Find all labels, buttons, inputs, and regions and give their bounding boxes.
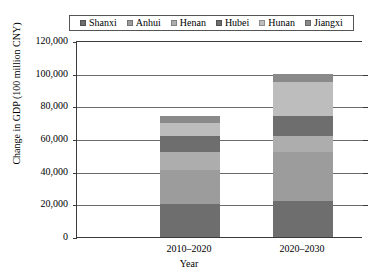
bar-2[interactable] — [273, 41, 333, 237]
bar-segment-anhui[interactable] — [273, 152, 333, 201]
legend-swatch-icon — [259, 20, 265, 26]
legend-swatch-icon — [305, 20, 311, 26]
legend-swatch-icon — [127, 20, 133, 26]
chart-container: ShanxiAnhuiHenanHubeiHunanJiangxi Change… — [0, 0, 378, 279]
bar-segment-hubei[interactable] — [160, 136, 220, 152]
y-axis-tick — [73, 75, 77, 76]
y-axis-tick — [73, 205, 77, 206]
y-axis-tick-right — [363, 75, 368, 76]
bar-segment-jiangxi[interactable] — [273, 74, 333, 82]
x-axis-tick-label: 2010–2020 — [129, 243, 249, 254]
y-axis-tick-label: 40,000 — [41, 167, 69, 177]
plot-area — [76, 41, 362, 238]
bar-1[interactable] — [160, 41, 220, 237]
legend-item-label: Shanxi — [89, 18, 117, 28]
legend-item-anhui[interactable]: Anhui — [127, 18, 161, 28]
legend-item-label: Hunan — [268, 18, 295, 28]
legend-swatch-icon — [171, 20, 177, 26]
y-axis-tick-right — [363, 173, 368, 174]
y-axis-tick — [73, 107, 77, 108]
legend-item-label: Henan — [180, 18, 206, 28]
legend-swatch-icon — [80, 20, 86, 26]
bar-segment-henan[interactable] — [160, 152, 220, 170]
y-axis-tick — [73, 173, 77, 174]
legend-item-label: Hubei — [225, 18, 249, 28]
bar-segment-hunan[interactable] — [273, 82, 333, 116]
y-axis-tick-right — [363, 205, 368, 206]
bar-segment-henan[interactable] — [273, 136, 333, 152]
y-axis-tick — [73, 140, 77, 141]
y-axis-tick — [73, 238, 77, 239]
bar-segment-shanxi[interactable] — [273, 201, 333, 237]
y-axis-tick-label: 20,000 — [41, 199, 69, 209]
y-axis-tick-label: 80,000 — [41, 101, 69, 111]
y-axis-tick-label: 120,000 — [36, 36, 69, 46]
y-axis-tick-labels: 020,00040,00060,00080,000100,000120,000 — [0, 41, 72, 238]
bar-segment-shanxi[interactable] — [160, 204, 220, 237]
legend-item-label: Jiangxi — [314, 18, 343, 28]
y-axis-tick-label: 100,000 — [36, 69, 69, 79]
legend-swatch-icon — [216, 20, 222, 26]
legend-item-label: Anhui — [136, 18, 161, 28]
legend-item-hubei[interactable]: Hubei — [216, 18, 249, 28]
bar-segment-jiangxi[interactable] — [160, 116, 220, 123]
legend-item-hunan[interactable]: Hunan — [259, 18, 295, 28]
x-axis-title: Year — [0, 258, 378, 269]
chart-legend: ShanxiAnhuiHenanHubeiHunanJiangxi — [69, 15, 354, 31]
y-axis-tick-label: 60,000 — [41, 134, 69, 144]
legend-item-shanxi[interactable]: Shanxi — [80, 18, 117, 28]
x-axis-tick-label: 2020–2030 — [242, 243, 362, 254]
bar-segment-anhui[interactable] — [160, 170, 220, 204]
y-axis-tick-right — [363, 107, 368, 108]
y-axis-tick-label: 0 — [63, 232, 68, 242]
bar-segment-hubei[interactable] — [273, 116, 333, 136]
legend-item-henan[interactable]: Henan — [171, 18, 206, 28]
bar-segment-hunan[interactable] — [160, 123, 220, 136]
y-axis-tick — [73, 42, 77, 43]
legend-item-jiangxi[interactable]: Jiangxi — [305, 18, 343, 28]
y-axis-tick-right — [363, 140, 368, 141]
